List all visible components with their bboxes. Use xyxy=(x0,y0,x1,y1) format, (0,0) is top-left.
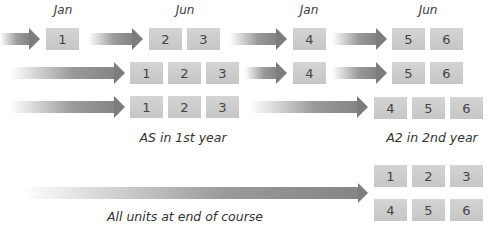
unit-box: 4 xyxy=(374,97,407,119)
arrow-icon xyxy=(245,62,287,84)
month-label-jun-2: Jun xyxy=(419,3,438,17)
unit-box: 6 xyxy=(450,97,483,119)
unit-box: 2 xyxy=(168,96,201,118)
arrow-icon xyxy=(250,96,368,118)
month-label-jun-1: Jun xyxy=(176,3,195,17)
arrow-icon xyxy=(10,96,125,118)
unit-box: 6 xyxy=(430,28,463,50)
unit-box: 4 xyxy=(293,62,326,84)
arrow-icon xyxy=(332,62,387,84)
caption-as-first-year: AS in 1st year xyxy=(139,130,226,145)
caption-a2-second-year: A2 in 2nd year xyxy=(386,130,478,145)
unit-box: 2 xyxy=(412,165,445,187)
unit-box: 3 xyxy=(206,62,239,84)
unit-box: 4 xyxy=(293,28,326,50)
arrow-icon xyxy=(22,183,368,203)
unit-box: 6 xyxy=(450,199,483,221)
unit-box: 1 xyxy=(46,28,79,50)
unit-box: 3 xyxy=(206,96,239,118)
month-label-jan-2: Jan xyxy=(300,3,319,17)
unit-box: 2 xyxy=(168,62,201,84)
unit-box: 4 xyxy=(374,199,407,221)
unit-box: 6 xyxy=(430,62,463,84)
unit-box: 1 xyxy=(130,96,163,118)
arrow-icon xyxy=(332,28,387,50)
unit-box: 3 xyxy=(187,28,220,50)
unit-box: 5 xyxy=(412,97,445,119)
arrow-icon xyxy=(88,28,143,50)
unit-box: 2 xyxy=(149,28,182,50)
unit-box: 5 xyxy=(392,28,425,50)
arrow-icon xyxy=(230,28,287,50)
arrow-icon xyxy=(10,62,125,84)
caption-all-units: All units at end of course xyxy=(107,209,263,224)
month-label-jan-1: Jan xyxy=(54,3,73,17)
unit-box: 1 xyxy=(130,62,163,84)
unit-box: 1 xyxy=(374,165,407,187)
unit-box: 5 xyxy=(392,62,425,84)
unit-box: 5 xyxy=(412,199,445,221)
arrow-icon xyxy=(0,28,40,50)
unit-box: 3 xyxy=(450,165,483,187)
